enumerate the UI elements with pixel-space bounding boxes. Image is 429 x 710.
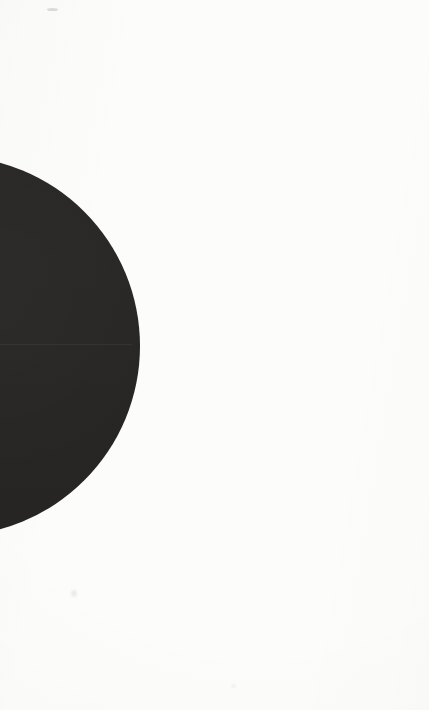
smudge-lower-mark xyxy=(231,684,236,688)
dark-circle-shape xyxy=(0,156,140,536)
smudge-middle-mark xyxy=(71,590,77,597)
page-canvas xyxy=(0,0,429,710)
page-alt-text xyxy=(0,0,1,1)
smudge-top-mark xyxy=(47,8,58,11)
